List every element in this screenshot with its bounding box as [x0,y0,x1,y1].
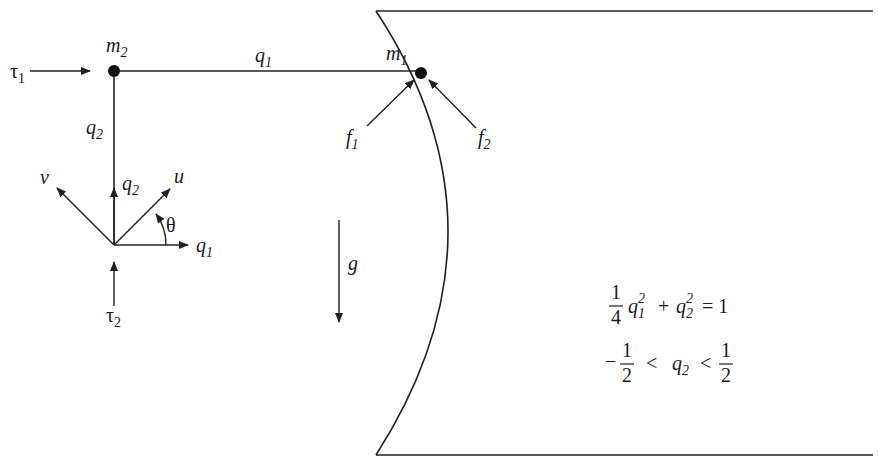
eq2-lt1: < [646,352,657,374]
eq2-lt2: < [700,352,711,374]
constraint-surface [376,11,873,455]
label-tau1: τ1 [10,60,25,86]
constraint-equation: 1 4 q21 + q22 = 1 [609,281,728,328]
eq1-frac-den: 4 [611,306,621,328]
eq2-hi-num: 1 [721,339,731,361]
eq2-var: q2 [672,352,689,378]
surface-curve [376,11,448,455]
eq2-hi-den: 2 [721,364,731,386]
label-m2: m2 [106,34,127,60]
bounds-equation: − 1 2 < q2 < 1 2 [605,339,733,386]
theta-arc [156,214,166,245]
label-q1-axis: q1 [196,234,213,260]
label-g: g [348,252,358,275]
label-theta: θ [166,214,176,236]
f1-arrow [367,80,414,126]
eq1-term1: q21 [628,291,645,321]
mass-m2 [108,65,120,77]
label-u: u [174,165,184,187]
label-tau2: τ2 [106,304,121,330]
label-f2: f2 [478,126,491,152]
eq1-term2: q22 [676,291,693,321]
eq2-neg: − [605,350,616,372]
eq1-frac-num: 1 [611,281,621,303]
label-m1: m1 [386,42,407,68]
label-q2-axis: q2 [122,172,139,198]
label-q2-link: q2 [86,116,103,142]
eq2-lo-den: 2 [622,364,632,386]
label-q1-link: q1 [255,44,272,70]
eq2-lo-num: 1 [622,339,632,361]
eq1-rhs: = 1 [702,295,728,317]
v-axis-arrow [57,188,114,245]
f2-arrow [429,80,476,128]
label-f1: f1 [346,126,359,152]
u-axis-arrow [114,189,170,245]
label-v: v [40,166,49,188]
mass-m1 [415,67,427,79]
diagram-canvas: m2 m1 q1 q2 τ1 τ2 f1 f2 v u q2 q1 θ g 1 … [0,0,878,468]
eq1-plus: + [658,295,669,317]
